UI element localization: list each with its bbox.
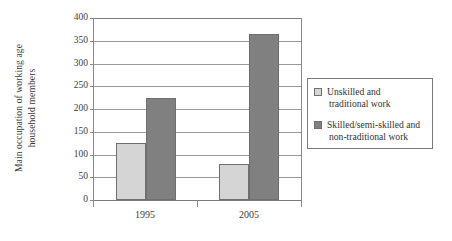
y-tick-mark: [90, 64, 94, 65]
x-tick-label-1995: 1995: [115, 209, 175, 220]
plot-area: [93, 18, 302, 200]
chart-legend: Unskilled and traditional work Skilled/s…: [307, 78, 433, 149]
bar-2005-unskilled: [219, 164, 249, 200]
gridline-400: [94, 18, 301, 19]
y-tick-mark: [90, 132, 94, 133]
bar-1995-skilled: [146, 98, 176, 200]
y-tick-label: 300: [58, 59, 88, 69]
legend-item-skilled: Skilled/semi-skilled and non-traditional…: [314, 119, 427, 143]
y-tick-label: 100: [58, 150, 88, 160]
y-axis-tick-labels: 400 350 300 250 200 150 100 50 0: [55, 18, 88, 200]
y-tick-label: 250: [58, 82, 88, 92]
legend-label-line1: Unskilled and: [327, 86, 381, 97]
legend-label-line1: Skilled/semi-skilled and: [327, 119, 420, 130]
legend-item-unskilled: Unskilled and traditional work: [314, 86, 427, 110]
y-axis-title: Main occupation of working age household…: [0, 0, 50, 215]
y-tick-label: 350: [58, 36, 88, 46]
y-tick-mark: [90, 18, 94, 19]
y-tick-mark: [90, 109, 94, 110]
y-tick-label: 150: [58, 127, 88, 137]
y-tick-label: 0: [58, 195, 88, 205]
y-tick-mark: [90, 41, 94, 42]
y-tick-label: 400: [58, 13, 88, 23]
legend-swatch-icon: [314, 121, 322, 129]
y-tick-label: 200: [58, 104, 88, 114]
legend-swatch-icon: [314, 88, 322, 96]
y-tick-mark: [90, 86, 94, 87]
bar-1995-unskilled: [116, 143, 146, 200]
y-tick-mark: [90, 155, 94, 156]
y-axis-title-line1: Main occupation of working age: [13, 43, 24, 171]
x-tick-label-2005: 2005: [219, 209, 279, 220]
bar-2005-skilled: [249, 34, 279, 200]
legend-label-line2: non-traditional work: [327, 131, 420, 143]
bar-chart-figure: Main occupation of working age household…: [0, 0, 452, 241]
y-axis-title-line2: household members: [25, 43, 38, 171]
y-tick-mark: [90, 177, 94, 178]
x-tick-mark: [301, 200, 302, 207]
y-tick-label: 50: [58, 173, 88, 183]
x-tick-mark: [93, 200, 94, 207]
x-tick-mark: [197, 200, 198, 207]
legend-label-line2: traditional work: [327, 98, 391, 110]
